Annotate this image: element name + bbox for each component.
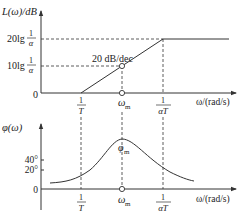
tick-20lg-prefix: 20lg (7, 33, 25, 44)
tick-20lg-num: 1 (29, 29, 33, 38)
slope-label: 20 dB/dec (92, 53, 133, 64)
tick-10lg-num: 1 (29, 56, 33, 65)
svg-text:m: m (124, 148, 130, 156)
svg-text:20°: 20° (25, 165, 39, 175)
svg-text:αT: αT (158, 203, 169, 213)
magnitude-plot: L(ω)/dB 20lg 1 α 10lg 1 α 0 20 dB/dec 1 … (1, 6, 236, 116)
omega-m-point (119, 63, 124, 68)
svg-text:1: 1 (161, 193, 165, 202)
svg-text:T: T (78, 106, 84, 116)
tick-10lg-prefix: 10lg (7, 60, 25, 71)
phase-x-label: ω/(rad/s) (196, 194, 230, 205)
svg-text:1: 1 (79, 193, 83, 202)
svg-text:m: m (125, 200, 131, 208)
magnitude-origin: 0 (33, 89, 38, 100)
svg-text:1: 1 (161, 96, 165, 105)
svg-text:m: m (125, 103, 131, 111)
magnitude-y-label: L(ω)/dB (1, 6, 37, 18)
svg-text:0: 0 (33, 185, 38, 195)
svg-text:40°: 40° (25, 155, 39, 165)
tick-20lg-den: α (29, 38, 34, 48)
phase-plot: φ(ω) 40° 20° 0 φ m 1 T ω m 1 αT ω/(rad/s… (2, 122, 236, 213)
phase-y-label: φ(ω) (2, 122, 23, 134)
svg-text:T: T (78, 203, 84, 213)
tick-10lg-den: α (29, 65, 34, 75)
svg-text:αT: αT (158, 106, 169, 116)
magnitude-x-label: ω/(rad/s) (196, 97, 230, 108)
lead-network-bode-diagram: L(ω)/dB 20lg 1 α 10lg 1 α 0 20 dB/dec 1 … (0, 0, 241, 217)
svg-text:1: 1 (79, 96, 83, 105)
